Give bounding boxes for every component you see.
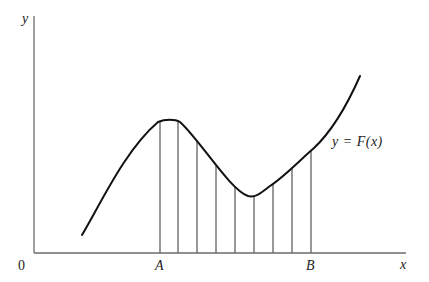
point-b-label: B — [306, 259, 315, 273]
curve-label: y = F(x) — [332, 135, 383, 149]
riemann-partition-diagram: y 0 A B x y = F(x) — [0, 0, 429, 282]
x-axis-label: x — [400, 258, 406, 272]
point-a-label: A — [155, 259, 164, 273]
function-curve — [82, 76, 360, 235]
y-axis-label: y — [22, 12, 28, 26]
origin-label: 0 — [18, 259, 25, 273]
